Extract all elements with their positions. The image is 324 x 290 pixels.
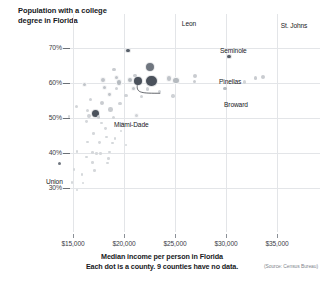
leader-lines: [0, 0, 324, 290]
source-note: (Source: Census Bureau): [264, 264, 318, 269]
chart-container: Population with a college degree in Flor…: [0, 0, 324, 290]
x-axis-title: Median income per person in Florida: [0, 252, 324, 262]
x-axis-caption: Median income per person in Florida Each…: [0, 252, 324, 273]
leader-line-broward: [137, 85, 160, 93]
